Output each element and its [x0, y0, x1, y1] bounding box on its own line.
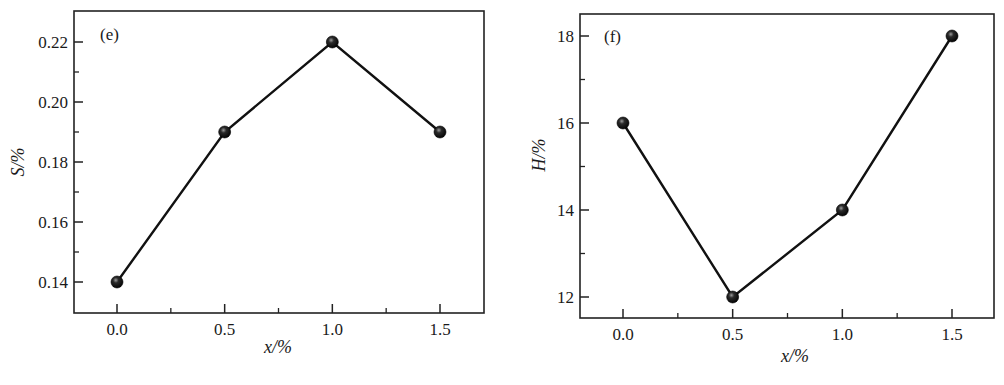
y-tick-label: 0.20: [38, 93, 68, 112]
y-tick-label: 0.22: [38, 33, 68, 52]
x-tick-label: 1.0: [322, 320, 343, 339]
y-axis-ticks: 12141618: [557, 27, 589, 307]
panel-label: (e): [100, 25, 119, 44]
data-point-marker: [434, 126, 446, 138]
y-tick-label: 16: [557, 114, 574, 133]
x-tick-label: 0.5: [214, 320, 235, 339]
x-tick-label: 1.5: [941, 325, 962, 344]
chart-panel-e: 0.140.160.180.200.22 0.00.51.01.5 (e) x/…: [8, 11, 484, 357]
y-tick-label: 0.16: [38, 213, 68, 232]
x-axis-title: x/%: [263, 337, 292, 357]
y-tick-label: 0.18: [38, 153, 68, 172]
y-tick-label: 18: [557, 27, 574, 46]
data-line: [623, 36, 952, 297]
y-tick-label: 12: [557, 288, 574, 307]
data-point-marker: [326, 36, 338, 48]
x-tick-label: 0.0: [612, 325, 633, 344]
x-axis-title: x/%: [780, 346, 809, 366]
x-axis-ticks: 0.00.51.01.5: [612, 309, 962, 344]
data-point-marker: [946, 30, 958, 42]
data-point-marker: [111, 276, 123, 288]
y-tick-label: 0.14: [38, 273, 68, 292]
chart-panel-f: 12141618 0.00.51.01.5 (f) x/% H/%: [529, 14, 994, 366]
data-point-marker: [727, 291, 739, 303]
x-axis-ticks: 0.00.51.01.5: [106, 304, 450, 339]
x-tick-label: 1.0: [832, 325, 853, 344]
y-axis-title: H/%: [529, 139, 549, 173]
y-axis-ticks: 0.140.160.180.200.22: [38, 33, 83, 292]
y-tick-label: 14: [557, 201, 575, 220]
plot-frame: [580, 14, 994, 318]
data-markers: [111, 36, 446, 288]
x-tick-label: 0.0: [106, 320, 127, 339]
y-axis-title: S/%: [8, 148, 28, 177]
data-line: [117, 42, 440, 282]
data-point-marker: [617, 117, 629, 129]
plot-frame: [74, 11, 484, 313]
data-markers: [617, 30, 958, 303]
figure-canvas: 0.140.160.180.200.22 0.00.51.01.5 (e) x/…: [0, 0, 1004, 385]
x-tick-label: 0.5: [722, 325, 743, 344]
data-point-marker: [836, 204, 848, 216]
panel-label: (f): [604, 27, 621, 46]
data-point-marker: [219, 126, 231, 138]
x-tick-label: 1.5: [429, 320, 450, 339]
